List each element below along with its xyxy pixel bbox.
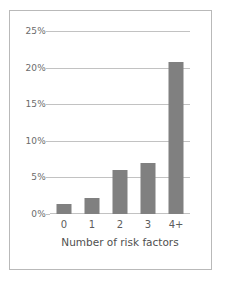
y-tick-label: 5% — [31, 172, 46, 182]
x-tick-label: 3 — [145, 219, 151, 230]
plot-area: 0%5%10%15%20%25% 01234+ Number of risk f… — [50, 31, 190, 214]
y-tick-label: 25% — [25, 26, 46, 36]
x-tick-label: 4+ — [169, 219, 184, 230]
bar-slot: 3 — [134, 31, 162, 214]
bar-slot: 1 — [78, 31, 106, 214]
x-tick-label: 0 — [61, 219, 67, 230]
bar-slot: 0 — [50, 31, 78, 214]
x-axis-title: Number of risk factors — [50, 236, 190, 248]
x-tick-label: 2 — [117, 219, 123, 230]
bar[interactable] — [85, 198, 100, 214]
chart-figure: 0%5%10%15%20%25% 01234+ Number of risk f… — [0, 0, 225, 281]
bar[interactable] — [113, 170, 128, 214]
bar[interactable] — [169, 62, 184, 214]
bar-slot: 2 — [106, 31, 134, 214]
bars-group: 01234+ — [50, 31, 190, 214]
x-tick-label: 1 — [89, 219, 95, 230]
bar[interactable] — [57, 204, 72, 214]
bar[interactable] — [141, 163, 156, 214]
y-tick-mark — [46, 214, 50, 215]
bar-slot: 4+ — [162, 31, 190, 214]
y-tick-label: 15% — [25, 99, 46, 109]
y-tick-label: 20% — [25, 63, 46, 73]
y-tick-label: 0% — [31, 209, 46, 219]
y-tick-label: 10% — [25, 136, 46, 146]
